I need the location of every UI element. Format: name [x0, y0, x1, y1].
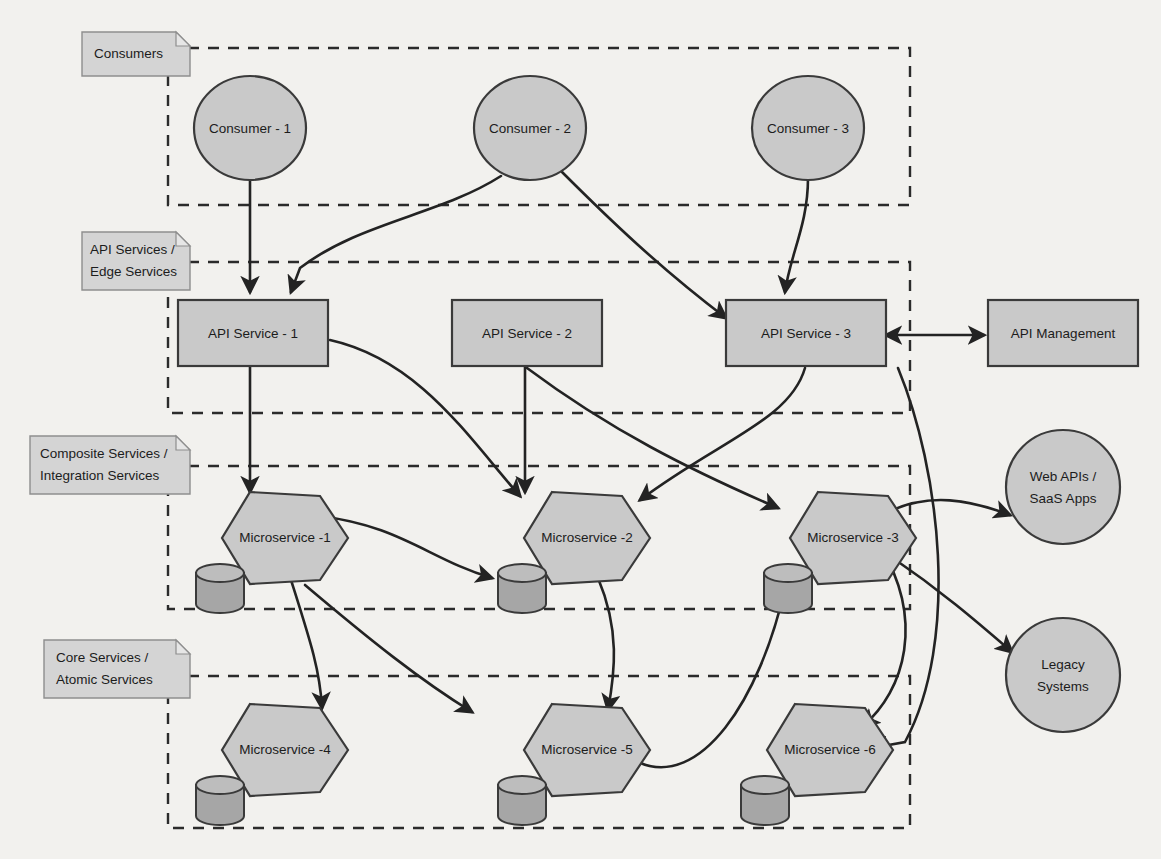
layer-label-composite-services: Composite Services / Integration Service…	[30, 436, 190, 494]
web-apis-label-line1: Web APIs /	[1030, 469, 1097, 484]
edge-ms5-to-ms3	[638, 588, 785, 767]
microservice-4-database-icon	[196, 776, 244, 825]
edge-consumer2-to-api3	[562, 172, 726, 318]
edge-ms3-to-legacy	[890, 556, 1012, 652]
microservice-1-database-icon	[196, 564, 244, 613]
node-microservice-2[interactable]: Microservice -2	[498, 492, 650, 613]
node-web-apis[interactable]: Web APIs / SaaS Apps	[1006, 430, 1120, 544]
edge-consumer3-to-api3	[785, 178, 808, 292]
layer-label-api-services-line2: Edge Services	[90, 264, 177, 279]
layer-label-core-services-line2: Atomic Services	[56, 672, 153, 687]
api-service-1-label: API Service - 1	[208, 326, 298, 341]
microservice-2-database-icon	[498, 564, 546, 613]
layer-label-consumers: Consumers	[82, 32, 190, 76]
node-microservice-6[interactable]: Microservice -6	[741, 704, 893, 825]
node-api-service-1[interactable]: API Service - 1	[178, 300, 328, 366]
consumer-1-label: Consumer - 1	[209, 121, 291, 136]
microservice-3-database-icon	[764, 564, 812, 613]
edge-ms2-to-ms5	[598, 578, 614, 710]
node-microservice-1[interactable]: Microservice -1	[196, 492, 348, 613]
edge-api3-to-ms2	[640, 368, 805, 500]
layer-label-api-services: API Services / Edge Services	[82, 232, 190, 290]
edge-ms1-to-ms5	[305, 585, 472, 712]
edge-ms1-to-ms2	[318, 516, 492, 578]
node-consumer-2[interactable]: Consumer - 2	[474, 76, 586, 180]
microservice-1-label: Microservice -1	[239, 530, 331, 545]
edge-ms1-to-ms4	[291, 580, 322, 708]
node-api-service-3[interactable]: API Service - 3	[726, 300, 886, 366]
layer-label-core-services: Core Services / Atomic Services	[44, 640, 190, 698]
legacy-systems-label-line2: Systems	[1037, 679, 1089, 694]
microservice-4-label: Microservice -4	[239, 742, 331, 757]
api-management-label: API Management	[1011, 326, 1116, 341]
node-microservice-3[interactable]: Microservice -3	[764, 492, 916, 613]
node-microservice-4[interactable]: Microservice -4	[196, 704, 348, 825]
node-api-management[interactable]: API Management	[988, 300, 1138, 366]
layer-label-composite-services-line2: Integration Services	[40, 468, 160, 483]
microservice-6-label: Microservice -6	[784, 742, 876, 757]
node-consumer-1[interactable]: Consumer - 1	[194, 76, 306, 180]
diagram-canvas: Consumer - 1 Consumer - 2 Consumer - 3 A…	[0, 0, 1161, 859]
layer-label-composite-services-line1: Composite Services /	[40, 446, 168, 461]
edge-api2-to-ms3	[527, 368, 778, 508]
node-consumer-3[interactable]: Consumer - 3	[752, 76, 864, 180]
web-apis-label-line2: SaaS Apps	[1030, 491, 1097, 506]
microservice-2-label: Microservice -2	[541, 530, 633, 545]
api-service-3-label: API Service - 3	[761, 326, 851, 341]
layer-label-consumers-line1: Consumers	[94, 46, 163, 61]
microservice-3-label: Microservice -3	[807, 530, 899, 545]
legacy-systems-label-line1: Legacy	[1041, 657, 1085, 672]
microservice-6-database-icon	[741, 776, 789, 825]
node-microservice-5[interactable]: Microservice -5	[498, 704, 650, 825]
node-api-service-2[interactable]: API Service - 2	[452, 300, 602, 366]
api-service-2-label: API Service - 2	[482, 326, 572, 341]
architecture-diagram: Consumer - 1 Consumer - 2 Consumer - 3 A…	[0, 0, 1161, 859]
microservice-5-database-icon	[498, 776, 546, 825]
edge-ms3-to-webapis	[888, 500, 1010, 515]
layer-label-core-services-line1: Core Services /	[56, 650, 149, 665]
consumer-2-label: Consumer - 2	[489, 121, 571, 136]
edge-consumer2-to-api1	[291, 176, 501, 292]
node-legacy-systems[interactable]: Legacy Systems	[1006, 618, 1120, 732]
microservice-5-label: Microservice -5	[541, 742, 633, 757]
consumer-3-label: Consumer - 3	[767, 121, 849, 136]
layer-label-api-services-line1: API Services /	[90, 242, 175, 257]
